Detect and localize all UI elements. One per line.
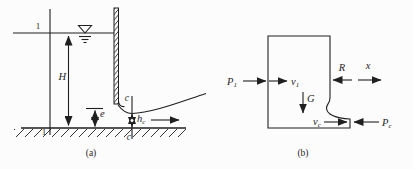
gate-reaction-label: R xyxy=(338,62,346,73)
jet-surface-curve xyxy=(118,94,206,114)
sluice-gate-figure: 1 1 H e c c hc (a) xyxy=(0,0,413,169)
outlet-velocity-label: vc xyxy=(313,116,322,129)
caption-a: (a) xyxy=(86,148,97,159)
inlet-velocity-label: v1 xyxy=(291,76,299,89)
x-axis-label: x xyxy=(365,60,371,71)
caption-b: (b) xyxy=(297,148,308,159)
water-surface-icon xyxy=(79,26,92,43)
contracted-depth-label: hc xyxy=(137,113,146,126)
upstream-depth-label: H xyxy=(57,71,67,82)
diagram-a-sluice-gate: 1 1 H e c c hc (a) xyxy=(13,8,206,159)
channel-bed-hatching xyxy=(14,129,187,137)
figure-canvas: 1 1 H e c c hc (a) xyxy=(0,0,413,169)
control-volume-outline xyxy=(268,36,350,128)
gate-lip xyxy=(119,101,125,107)
contracted-depth-node xyxy=(130,119,134,123)
gate xyxy=(114,8,125,107)
weight-label: G xyxy=(307,93,315,104)
section-1-top-label: 1 xyxy=(36,21,41,31)
gate-opening-label: e xyxy=(100,108,105,119)
diagram-b-control-volume: P1 v1 G R x vc Pc (b) xyxy=(226,36,392,159)
inlet-pressure-label: P1 xyxy=(226,76,237,89)
section-c-top-label: c xyxy=(125,93,130,103)
outlet-pressure-label: Pc xyxy=(381,117,392,130)
